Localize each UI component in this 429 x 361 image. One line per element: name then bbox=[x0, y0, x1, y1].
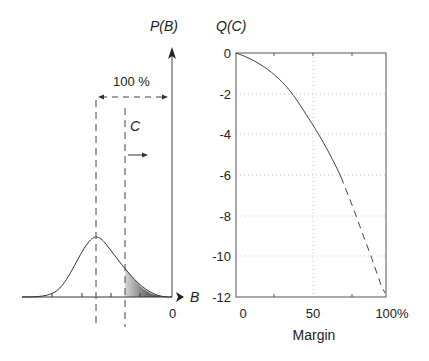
b-axis-arrow-icon bbox=[176, 292, 184, 302]
y-tick-0: 0 bbox=[224, 46, 231, 61]
y-tick-4: -8 bbox=[219, 209, 231, 224]
span-arrow-right-icon bbox=[162, 95, 168, 100]
x-tick-labels: 0 50 100% bbox=[239, 306, 409, 321]
y-tick-2: -4 bbox=[219, 127, 231, 142]
b-axis-label: B bbox=[190, 289, 199, 305]
p-axis-label: P(B) bbox=[150, 18, 178, 34]
q-curve-solid bbox=[236, 53, 341, 177]
tail-shading bbox=[125, 268, 168, 297]
y-axis-label: Q(C) bbox=[216, 18, 246, 34]
span-label: 100 % bbox=[113, 74, 150, 89]
grid-lines bbox=[236, 53, 386, 297]
q-curve-dashed bbox=[341, 177, 385, 293]
x-tick-1: 50 bbox=[306, 306, 320, 321]
y-tick-5: -10 bbox=[212, 249, 231, 264]
b-origin-label: 0 bbox=[169, 306, 176, 321]
y-tick-6: -12 bbox=[212, 290, 231, 305]
plot-frame bbox=[236, 53, 386, 297]
span-arrow-left-icon bbox=[98, 95, 104, 100]
direction-arrow-head-icon bbox=[142, 153, 148, 158]
y-tick-1: -2 bbox=[219, 87, 231, 102]
x-tick-0: 0 bbox=[239, 306, 246, 321]
left-panel: P(B) 100 % C B 0 bbox=[22, 18, 199, 327]
x-axis-label: Margin bbox=[293, 327, 336, 343]
figure: P(B) 100 % C B 0 0 bbox=[0, 0, 429, 361]
threshold-label: C bbox=[130, 118, 141, 134]
x-tick-2: 100% bbox=[375, 306, 409, 321]
right-panel: 0 -2 -4 -6 -8 -10 -12 0 50 100% Margin Q… bbox=[212, 18, 409, 343]
y-tick-labels: 0 -2 -4 -6 -8 -10 -12 bbox=[212, 46, 231, 305]
y-tick-3: -6 bbox=[219, 168, 231, 183]
gaussian-curve bbox=[22, 237, 172, 297]
